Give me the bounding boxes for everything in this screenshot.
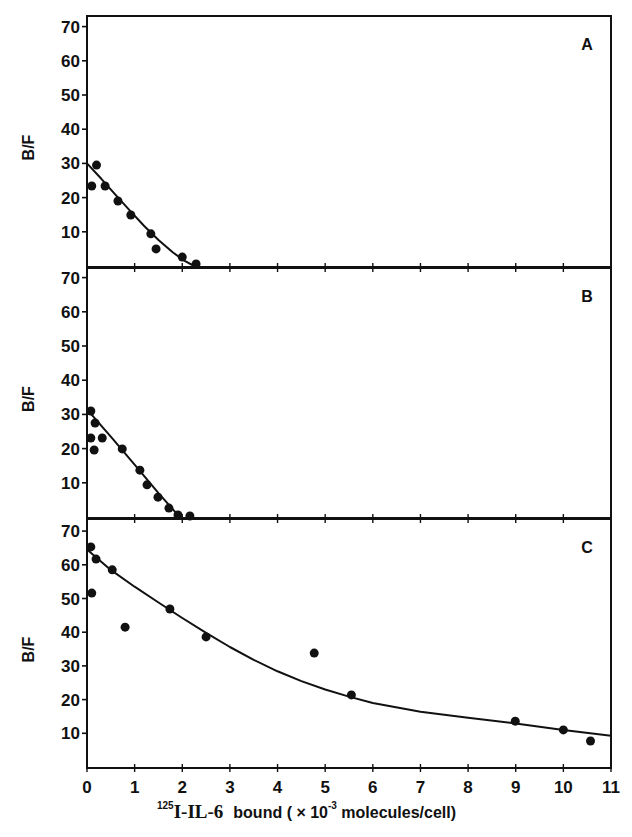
- y-tick-label: 50: [61, 86, 80, 105]
- data-point: [86, 542, 95, 551]
- data-point: [98, 433, 107, 442]
- data-point: [92, 161, 101, 170]
- panel-c: 10203040506070B/FC: [20, 519, 611, 768]
- y-tick-label: 10: [61, 474, 80, 493]
- x-tick-label: 2: [178, 778, 187, 797]
- panel-a: 10203040506070B/FA: [20, 16, 611, 268]
- data-point: [146, 229, 155, 238]
- y-tick-label: 30: [61, 154, 80, 173]
- fit-curve: [87, 163, 194, 266]
- x-tick-label: 4: [273, 778, 283, 797]
- data-point: [152, 244, 161, 253]
- panel-label: A: [581, 36, 593, 53]
- data-point: [143, 480, 152, 489]
- y-tick-label: 20: [61, 691, 80, 710]
- x-axis-label: 125I-IL-6bound ( × 10-3 molecules/cell): [157, 800, 456, 822]
- x-tick-label: 8: [463, 778, 472, 797]
- panel-b: 10203040506070B/FB: [20, 268, 611, 520]
- data-point: [178, 253, 187, 262]
- y-axis-label: B/F: [20, 386, 37, 412]
- x-axis: 01234567891011125I-IL-6bound ( × 10-3 mo…: [82, 768, 620, 822]
- y-tick-label: 70: [61, 269, 80, 288]
- scatchard-plot-figure: 10203040506070B/FA10203040506070B/FB1020…: [0, 0, 632, 837]
- x-tick-label: 5: [320, 778, 329, 797]
- y-tick-label: 30: [61, 657, 80, 676]
- data-point: [126, 211, 135, 220]
- x-tick-label: 6: [368, 778, 377, 797]
- data-point: [113, 197, 122, 206]
- data-point: [135, 466, 144, 475]
- x-tick-label: 9: [511, 778, 520, 797]
- data-point: [310, 649, 319, 658]
- y-tick-label: 60: [61, 52, 80, 71]
- y-axis-label: B/F: [20, 636, 37, 662]
- y-tick-label: 70: [61, 522, 80, 541]
- y-tick-label: 20: [61, 440, 80, 459]
- panel-frame: [87, 16, 611, 267]
- y-tick-label: 60: [61, 303, 80, 322]
- data-point: [164, 504, 173, 513]
- y-tick-label: 40: [61, 371, 80, 390]
- data-point: [90, 445, 99, 454]
- y-tick-label: 50: [61, 337, 80, 356]
- data-point: [86, 433, 95, 442]
- y-tick-label: 10: [61, 223, 80, 242]
- y-tick-label: 50: [61, 590, 80, 609]
- y-tick-label: 40: [61, 623, 80, 642]
- data-point: [118, 444, 127, 453]
- y-tick-label: 20: [61, 189, 80, 208]
- data-point: [153, 493, 162, 502]
- data-point: [586, 737, 595, 746]
- panel-label: B: [581, 288, 593, 305]
- data-point: [91, 418, 100, 427]
- fit-curve: [87, 409, 182, 517]
- x-tick-label: 7: [416, 778, 425, 797]
- panel-label: C: [581, 539, 593, 556]
- panel-frame: [87, 268, 611, 518]
- data-point: [101, 181, 110, 190]
- data-point: [121, 623, 130, 632]
- x-tick-label: 10: [554, 778, 573, 797]
- y-tick-label: 70: [61, 18, 80, 37]
- data-point: [559, 725, 568, 734]
- panel-frame: [87, 519, 611, 768]
- data-point: [87, 589, 96, 598]
- data-point: [347, 690, 356, 699]
- y-tick-label: 40: [61, 120, 80, 139]
- data-point: [86, 406, 95, 415]
- y-axis-label: B/F: [20, 134, 37, 160]
- data-point: [92, 555, 101, 564]
- x-tick-label: 1: [130, 778, 139, 797]
- y-tick-label: 60: [61, 556, 80, 575]
- data-point: [202, 632, 211, 641]
- x-tick-label: 11: [602, 778, 620, 797]
- data-point: [511, 717, 520, 726]
- y-tick-label: 30: [61, 405, 80, 424]
- data-point: [165, 604, 174, 613]
- fit-curve: [87, 550, 611, 736]
- y-tick-label: 10: [61, 724, 80, 743]
- x-tick-label: 3: [225, 778, 234, 797]
- data-point: [87, 181, 96, 190]
- x-tick-label: 0: [82, 778, 91, 797]
- data-point: [108, 565, 117, 574]
